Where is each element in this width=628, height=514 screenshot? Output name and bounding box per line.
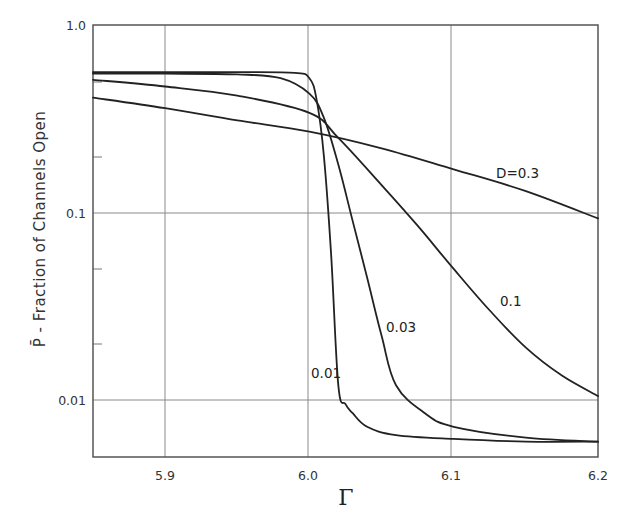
gridlines xyxy=(93,25,598,457)
curve-label-d-0.1: 0.1 xyxy=(500,293,521,309)
x-axis-title: Γ xyxy=(338,485,353,510)
curve-d-0.01 xyxy=(93,72,598,442)
y-tick-label-0.01: 0.01 xyxy=(58,393,86,408)
plot-frame xyxy=(93,25,598,457)
x-tick-label-6.2: 6.2 xyxy=(588,468,608,483)
x-tick-label-6.1: 6.1 xyxy=(441,468,461,483)
y-axis-title: P̄ - Fraction of Channels Open xyxy=(30,111,49,348)
y-tick-label-0.1: 0.1 xyxy=(66,206,86,221)
curve-d-0.03 xyxy=(93,74,598,442)
y-tick-label-1.0: 1.0 xyxy=(66,18,86,33)
x-tick-label-6.0: 6.0 xyxy=(298,468,318,483)
curves xyxy=(93,72,598,442)
curve-d-0.3 xyxy=(93,98,598,219)
curve-label-d-0.01: 0.01 xyxy=(311,365,341,381)
curve-label-d-0.3: D=0.3 xyxy=(496,165,539,181)
chart: 1.0 0.1 0.01 5.9 6.0 6.1 6.2 Γ P̄ - Frac… xyxy=(0,0,628,514)
curve-d-0.1 xyxy=(93,80,598,396)
curve-label-d-0.03: 0.03 xyxy=(386,319,416,335)
x-tick-label-5.9: 5.9 xyxy=(155,468,175,483)
